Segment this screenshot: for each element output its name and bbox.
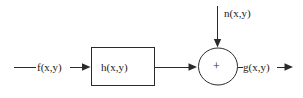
diagram-svg-canvas xyxy=(0,0,303,98)
noise-arrow-head-icon xyxy=(214,39,221,48)
input-signal-label: f(x,y) xyxy=(37,61,62,73)
sum-operator-label: + xyxy=(213,60,220,72)
output-arrow-head-icon xyxy=(285,63,294,71)
system-block-label: h(x,y) xyxy=(101,61,128,73)
output-signal-label: g(x,y) xyxy=(243,61,270,73)
input-arrow-head-icon xyxy=(82,63,91,71)
noise-signal-label: n(x,y) xyxy=(224,7,251,19)
block-diagram: f(x,y) h(x,y) n(x,y) g(x,y) + xyxy=(0,0,303,98)
sum-input-arrow-head-icon xyxy=(189,63,198,71)
